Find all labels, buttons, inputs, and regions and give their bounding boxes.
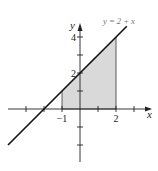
y-axis-arrow-icon: [78, 23, 83, 31]
x-tick-label: −1: [57, 113, 68, 124]
x-tick-label: 2: [114, 113, 119, 124]
function-graph: −1224 x y y = 2 + x: [0, 0, 158, 171]
y-tick-label: 4: [71, 32, 76, 43]
equation-annotation: y = 2 + x: [102, 16, 135, 26]
y-axis-label: y: [69, 19, 75, 31]
x-axis-label: x: [146, 108, 152, 120]
y-tick-label: 2: [71, 68, 76, 79]
